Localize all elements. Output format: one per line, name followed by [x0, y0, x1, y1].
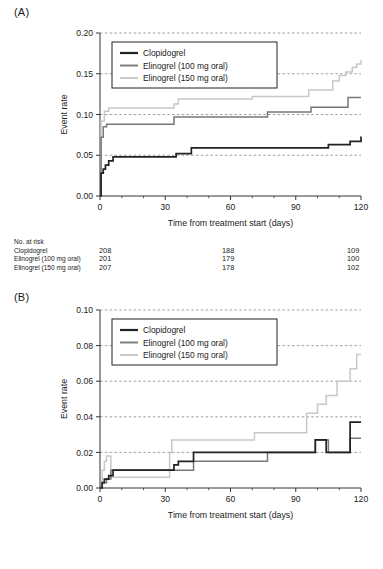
- x-tick-label: 120: [354, 202, 369, 212]
- x-tick-label: 30: [160, 494, 170, 504]
- y-tick-label: 0.10: [76, 305, 93, 315]
- legend-label-3: Elinogrel (150 mg oral): [143, 350, 228, 360]
- panel-a: (A) 0.000.050.100.150.200306090120Time f…: [0, 0, 383, 285]
- y-tick-label: 0.00: [76, 191, 93, 201]
- risk-row: Elinogrel (150 mg oral) 207 178 102: [0, 264, 383, 273]
- x-tick-label: 60: [226, 202, 236, 212]
- legend-label-3: Elinogrel (150 mg oral): [143, 73, 228, 83]
- y-tick-label: 0.10: [76, 110, 93, 120]
- series-line-2: [100, 97, 361, 196]
- series-line-1: [100, 137, 361, 196]
- y-tick-label: 0.15: [76, 69, 93, 79]
- x-tick-label: 90: [291, 494, 301, 504]
- x-tick-label: 120: [354, 494, 369, 504]
- legend-label-2: Elinogrel (100 mg oral): [143, 61, 228, 71]
- y-tick-label: 0.02: [76, 448, 93, 458]
- x-tick-label: 60: [226, 494, 236, 504]
- legend-label-1: Clopidogrel: [143, 325, 186, 335]
- series-line-3: [100, 355, 361, 489]
- x-axis-label: Time from treatment start (days): [168, 510, 293, 520]
- y-tick-label: 0.20: [76, 28, 93, 38]
- x-axis-label: Time from treatment start (days): [168, 218, 293, 228]
- y-tick-label: 0.05: [76, 150, 93, 160]
- panel-a-plot: 0.000.050.100.150.200306090120Time from …: [0, 0, 383, 238]
- y-axis-label: Event rate: [59, 379, 69, 419]
- y-tick-label: 0.04: [76, 412, 93, 422]
- y-axis-label: Event rate: [59, 94, 69, 134]
- legend-label-2: Elinogrel (100 mg oral): [143, 338, 228, 348]
- x-tick-label: 0: [98, 202, 103, 212]
- y-tick-label: 0.00: [76, 483, 93, 493]
- risk-value: 207: [99, 264, 111, 273]
- risk-row-label: Clopidogrel: [14, 247, 47, 256]
- risk-value: 178: [222, 264, 234, 273]
- y-tick-label: 0.08: [76, 341, 93, 351]
- y-tick-label: 0.06: [76, 376, 93, 386]
- panel-b-plot: 0.000.020.040.060.080.100306090120Time f…: [0, 285, 383, 525]
- legend-label-1: Clopidogrel: [143, 48, 186, 58]
- risk-row-label: Elinogrel (100 mg oral): [14, 255, 81, 264]
- x-tick-label: 90: [291, 202, 301, 212]
- x-tick-label: 30: [160, 202, 170, 212]
- x-tick-label: 0: [98, 494, 103, 504]
- risk-row: Clopidogrel 208 188 109: [0, 247, 383, 256]
- risk-row: Elinogrel (100 mg oral) 201 179 100: [0, 255, 383, 264]
- risk-table-title: No. at risk: [14, 238, 44, 247]
- panel-b: (B) 0.000.020.040.060.080.100306090120Ti…: [0, 285, 383, 569]
- series-line-2: [100, 438, 361, 488]
- series-line-1: [100, 422, 361, 488]
- risk-value: 102: [347, 264, 359, 273]
- risk-row-label: Elinogrel (150 mg oral): [14, 264, 81, 273]
